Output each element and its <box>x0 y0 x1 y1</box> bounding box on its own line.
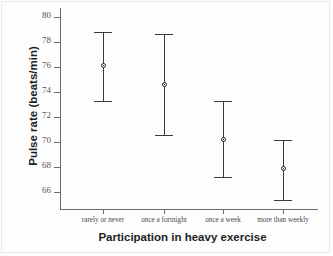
y-tick-label: 68 <box>42 160 51 170</box>
y-tick-mark <box>54 167 60 168</box>
error-bar-upper-cap <box>155 34 173 35</box>
y-tick-label: 76 <box>42 60 51 70</box>
y-tick-label: 78 <box>42 35 51 45</box>
x-tick-mark <box>223 209 224 214</box>
y-tick-mark <box>54 17 60 18</box>
x-tick-mark <box>103 209 104 214</box>
mean-marker <box>281 166 286 171</box>
y-tick-mark <box>54 42 60 43</box>
y-tick-label: 70 <box>42 135 51 145</box>
error-bar-upper-cap <box>94 32 112 33</box>
x-axis-title: Participation in heavy exercise <box>40 231 325 243</box>
y-tick-mark <box>54 192 60 193</box>
error-bar-lower-cap <box>274 200 292 201</box>
x-tick-mark <box>164 209 165 214</box>
mean-marker <box>162 82 167 87</box>
x-axis-line <box>60 209 318 210</box>
y-tick-label: 66 <box>42 185 51 195</box>
plot-area: 6668707274767880 rarely or neveronce a f… <box>60 8 318 210</box>
y-tick-label: 72 <box>42 110 51 120</box>
y-axis-line <box>60 8 61 210</box>
error-bar-upper-cap <box>214 101 232 102</box>
mean-marker <box>101 63 106 68</box>
y-tick-label: 80 <box>42 10 51 20</box>
x-tick-mark <box>283 209 284 214</box>
error-bar-lower-cap <box>155 135 173 136</box>
y-axis-title: Pulse rate (beats/min) <box>27 11 39 201</box>
y-tick-mark <box>54 117 60 118</box>
error-bar-lower-cap <box>214 177 232 178</box>
y-tick-mark <box>54 92 60 93</box>
y-tick-mark <box>54 67 60 68</box>
y-tick-mark <box>54 142 60 143</box>
error-bar-upper-cap <box>274 140 292 141</box>
x-tick-label-more-than-weekly: more than weekly <box>238 216 328 224</box>
chart-figure: Pulse rate (beats/min) Participation in … <box>0 0 333 256</box>
y-tick-label: 74 <box>42 85 51 95</box>
mean-marker <box>221 137 226 142</box>
error-bar-lower-cap <box>94 101 112 102</box>
